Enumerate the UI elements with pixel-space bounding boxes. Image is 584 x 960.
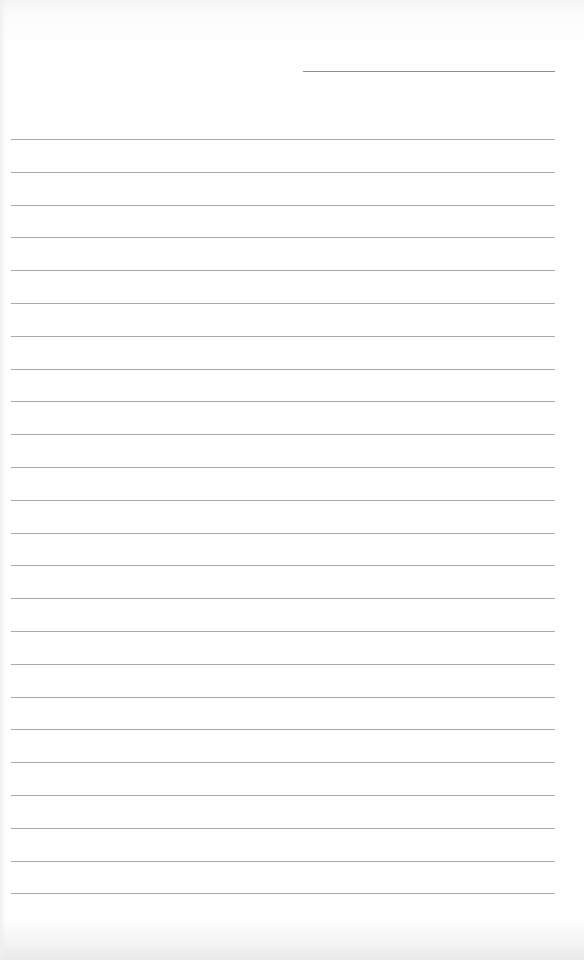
ruled-line <box>11 598 555 599</box>
ruled-line <box>11 205 555 206</box>
ruled-line <box>11 533 555 534</box>
ruled-line <box>11 893 555 894</box>
ruled-line <box>11 401 555 402</box>
page-edge-shadow <box>0 0 6 960</box>
ruled-line <box>11 369 555 370</box>
ruled-line <box>11 828 555 829</box>
ruled-line <box>11 336 555 337</box>
ruled-line <box>11 664 555 665</box>
header-line <box>303 71 555 72</box>
ruled-line <box>11 697 555 698</box>
ruled-line <box>11 467 555 468</box>
ruled-line <box>11 631 555 632</box>
ruled-line <box>11 500 555 501</box>
ruled-line <box>11 434 555 435</box>
ruled-line <box>11 172 555 173</box>
ruled-line <box>11 237 555 238</box>
ruled-line <box>11 795 555 796</box>
ruled-line <box>11 729 555 730</box>
ruled-line <box>11 762 555 763</box>
ruled-line <box>11 270 555 271</box>
ruled-line <box>11 861 555 862</box>
ruled-line <box>11 139 555 140</box>
ruled-line <box>11 565 555 566</box>
ruled-line <box>11 303 555 304</box>
lined-paper-page <box>0 0 584 960</box>
